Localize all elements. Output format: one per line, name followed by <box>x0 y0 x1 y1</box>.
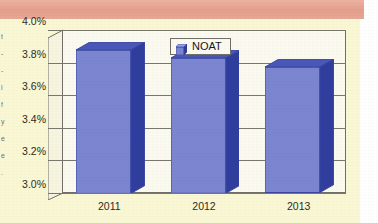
margin-text-fragment: f <box>1 96 10 113</box>
margin-text-fragment: t <box>1 28 10 45</box>
margin-text-fragment: - <box>1 62 10 79</box>
y-tick-label: 3.4% <box>22 113 46 125</box>
noat-bar-chart: 4.0%3.8%3.6%3.4%3.2%3.0% NOAT 2011201220… <box>10 24 360 220</box>
margin-text-fragment: - <box>1 45 10 62</box>
y-axis-labels: 4.0%3.8%3.6%3.4%3.2%3.0% <box>10 24 46 214</box>
x-tick-label: 2011 <box>62 200 157 212</box>
x-tick-label: 2013 <box>251 200 346 212</box>
top-banner <box>0 0 364 19</box>
page-right-margin <box>360 0 378 223</box>
chart-legend: NOAT <box>170 38 231 55</box>
y-tick-label: 3.8% <box>22 48 46 60</box>
margin-text-fragment: y <box>1 113 10 130</box>
chart-page: t--lfyee. 4.0%3.8%3.6%3.4%3.2%3.0% NOAT … <box>0 0 378 223</box>
margin-text-fragment: . <box>1 164 10 181</box>
page-margin-cropped-text: t--lfyee. <box>1 28 10 218</box>
bar-3d-shape <box>76 42 145 193</box>
banner-gradient <box>0 0 364 19</box>
legend-swatch-cube-icon <box>176 41 187 52</box>
gridline <box>62 193 346 194</box>
left-wall-svg <box>48 24 63 200</box>
bar-2011[interactable] <box>76 42 145 193</box>
margin-text-fragment: l <box>1 79 10 96</box>
y-tick-label: 3.0% <box>22 178 46 190</box>
margin-text-fragment: e <box>1 130 10 147</box>
y-tick-label: 3.6% <box>22 80 46 92</box>
y-tick-label: 3.2% <box>22 145 46 157</box>
chart-left-wall <box>48 24 63 200</box>
x-tick-label: 2012 <box>157 200 252 212</box>
margin-text-fragment: e <box>1 147 10 164</box>
bar-3d-shape <box>265 59 334 193</box>
x-axis-labels: 201120122013 <box>62 200 346 218</box>
y-tick-label: 4.0% <box>22 15 46 27</box>
bar-2013[interactable] <box>265 59 334 193</box>
legend-entry-label: NOAT <box>192 41 222 52</box>
bar-2012[interactable] <box>171 50 240 193</box>
bar-3d-shape <box>171 50 240 193</box>
